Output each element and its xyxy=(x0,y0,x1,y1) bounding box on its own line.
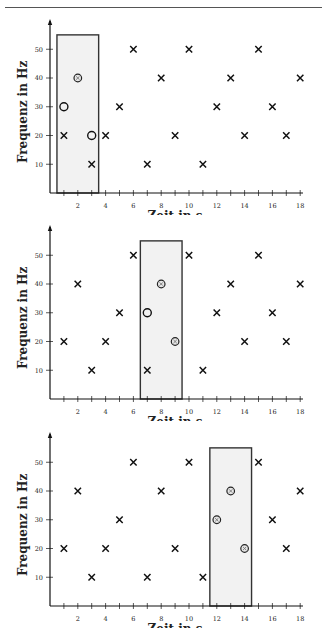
y-tick-label: 40 xyxy=(35,74,43,82)
cross-marker-icon xyxy=(241,132,247,138)
circled-x-marker-icon xyxy=(157,280,165,288)
time-window-rect xyxy=(57,35,99,193)
circled-x-marker-icon xyxy=(227,487,235,495)
cross-marker-icon xyxy=(269,310,275,316)
circled-x-marker-icon xyxy=(213,516,221,524)
cross-marker-icon xyxy=(102,545,108,551)
y-tick-label: 30 xyxy=(35,516,43,524)
cross-marker-icon xyxy=(200,161,206,167)
cross-marker-icon xyxy=(102,132,108,138)
y-axis-arrow-icon xyxy=(48,432,52,438)
cross-marker-icon xyxy=(75,488,81,494)
y-axis-arrow-icon xyxy=(48,19,52,25)
chart-panel-3: 246810121416181020304050Zeit in sFrequen… xyxy=(0,413,322,628)
cross-marker-icon xyxy=(283,545,289,551)
cross-marker-icon xyxy=(61,338,67,344)
x-tick-label: 12 xyxy=(213,615,221,623)
cross-marker-icon xyxy=(75,281,81,287)
y-tick-label: 30 xyxy=(35,309,43,317)
cross-marker-icon xyxy=(186,459,192,465)
cross-marker-icon xyxy=(214,104,220,110)
y-tick-label: 10 xyxy=(35,574,43,582)
cross-marker-icon xyxy=(283,338,289,344)
cross-marker-icon xyxy=(297,488,303,494)
cross-marker-icon xyxy=(89,574,95,580)
cross-marker-icon xyxy=(297,281,303,287)
circled-x-marker-icon xyxy=(171,338,179,346)
y-axis-title: Frequenz in Hz xyxy=(16,474,30,577)
cross-marker-icon xyxy=(214,310,220,316)
chart-panel-2: 246810121416181020304050Zeit in sFrequen… xyxy=(0,206,322,421)
x-tick-label: 4 xyxy=(104,615,108,623)
axes xyxy=(50,434,303,606)
y-tick-label: 50 xyxy=(35,46,43,54)
y-axis-arrow-icon xyxy=(48,225,52,231)
cross-marker-icon xyxy=(269,517,275,523)
cross-marker-icon xyxy=(61,545,67,551)
cross-marker-icon xyxy=(228,281,234,287)
x-tick-label: 18 xyxy=(296,615,304,623)
cross-marker-icon xyxy=(144,161,150,167)
cross-marker-icon xyxy=(102,338,108,344)
chart-panel-1: 246810121416181020304050Zeit in sFrequen… xyxy=(0,0,322,215)
cross-marker-icon xyxy=(172,545,178,551)
y-tick-label: 40 xyxy=(35,487,43,495)
cross-marker-icon xyxy=(116,104,122,110)
y-tick-label: 50 xyxy=(35,252,43,260)
cross-marker-icon xyxy=(130,46,136,52)
time-window-rect xyxy=(210,448,252,606)
cross-marker-icon xyxy=(158,75,164,81)
cross-marker-icon xyxy=(269,104,275,110)
cross-marker-icon xyxy=(172,132,178,138)
cross-marker-icon xyxy=(89,367,95,373)
cross-marker-icon xyxy=(130,459,136,465)
y-tick-label: 20 xyxy=(35,338,43,346)
cross-marker-icon xyxy=(200,367,206,373)
cross-marker-icon xyxy=(228,75,234,81)
cross-marker-icon xyxy=(116,310,122,316)
cross-marker-icon xyxy=(255,459,261,465)
y-axis-title: Frequenz in Hz xyxy=(16,267,30,370)
x-tick-label: 2 xyxy=(76,615,80,623)
cross-marker-icon xyxy=(130,252,136,258)
y-tick-label: 40 xyxy=(35,280,43,288)
y-tick-label: 30 xyxy=(35,103,43,111)
cross-marker-icon xyxy=(186,46,192,52)
cross-marker-icon xyxy=(241,338,247,344)
y-tick-label: 50 xyxy=(35,459,43,467)
cross-marker-icon xyxy=(158,488,164,494)
cross-marker-icon xyxy=(255,46,261,52)
cross-marker-icon xyxy=(283,132,289,138)
y-axis-title: Frequenz in Hz xyxy=(16,61,30,164)
cross-marker-icon xyxy=(297,75,303,81)
cross-marker-icon xyxy=(186,252,192,258)
y-tick-label: 20 xyxy=(35,132,43,140)
cross-marker-icon xyxy=(144,574,150,580)
y-tick-label: 10 xyxy=(35,161,43,169)
x-tick-label: 16 xyxy=(268,615,276,623)
cross-marker-icon xyxy=(200,574,206,580)
x-tick-label: 6 xyxy=(131,615,135,623)
cross-marker-icon xyxy=(116,517,122,523)
x-tick-label: 14 xyxy=(240,615,248,623)
y-tick-label: 10 xyxy=(35,367,43,375)
circled-x-marker-icon xyxy=(241,545,249,553)
cross-marker-icon xyxy=(255,252,261,258)
time-window-rect xyxy=(140,241,182,399)
circled-x-marker-icon xyxy=(74,74,82,82)
y-tick-label: 20 xyxy=(35,545,43,553)
x-axis-title: Zeit in s xyxy=(148,622,203,628)
